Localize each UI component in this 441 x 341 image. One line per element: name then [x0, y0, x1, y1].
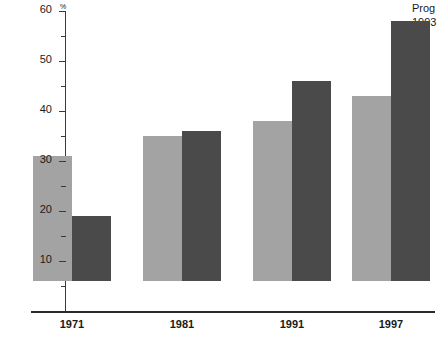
bar-1997-series-light [352, 96, 391, 281]
y-tick-label-20: 20 [8, 203, 52, 215]
bar-1981-series-dark [182, 131, 221, 281]
x-axis-label-1997: 1997 [352, 318, 430, 330]
x-axis-label-1981: 1981 [143, 318, 221, 330]
y-tick-minor-55 [61, 36, 66, 37]
y-tick-label-30: 30 [8, 153, 52, 165]
y-tick-major-10 [59, 261, 66, 262]
x-axis-label-1971: 1971 [33, 318, 111, 330]
plot-area [0, 0, 435, 311]
y-tick-label-40: 40 [8, 103, 52, 115]
bar-1971-series-dark [72, 216, 111, 281]
x-axis-label-1991: 1991 [253, 318, 331, 330]
y-tick-major-20 [59, 211, 66, 212]
y-tick-label-60: 60 [8, 3, 52, 15]
y-tick-minor-15 [61, 236, 66, 237]
y-tick-major-30 [59, 161, 66, 162]
bar-1991-series-light [253, 121, 292, 281]
y-tick-minor-25 [61, 186, 66, 187]
x-axis-line [31, 311, 435, 313]
y-tick-minor-35 [61, 136, 66, 137]
y-tick-minor-5 [61, 286, 66, 287]
y-tick-minor-45 [61, 86, 66, 87]
bar-1997-series-dark [391, 21, 430, 281]
y-tick-major-40 [59, 111, 66, 112]
bar-1991-series-dark [292, 81, 331, 281]
y-tick-major-50 [59, 61, 66, 62]
y-tick-label-50: 50 [8, 53, 52, 65]
bar-1981-series-light [143, 136, 182, 281]
y-tick-major-60 [59, 11, 66, 12]
y-tick-label-10: 10 [8, 253, 52, 265]
